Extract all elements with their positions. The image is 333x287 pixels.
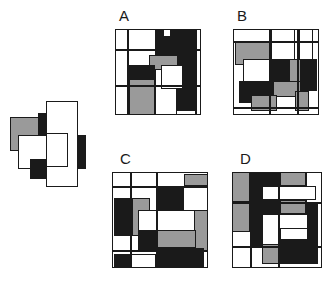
option-c-gridline-h-0 xyxy=(112,186,208,188)
option-label-d: D xyxy=(240,151,251,166)
option-d-rect-gray-3 xyxy=(280,172,306,186)
option-d-rect-white-5 xyxy=(262,186,316,200)
puzzle-canvas: A B C D xyxy=(0,0,333,287)
option-c-rect-white-11 xyxy=(130,254,156,268)
option-d-rect-gray-1 xyxy=(232,172,250,202)
option-c-rect-black-2 xyxy=(156,186,184,210)
option-c-rect-black-10 xyxy=(114,254,130,268)
option-a-rect-white-3 xyxy=(163,29,171,37)
option-a-rect-black-2 xyxy=(155,29,195,55)
option-label-c: C xyxy=(120,151,131,166)
option-b-rect-black-7 xyxy=(301,59,317,91)
reference-figure xyxy=(8,95,94,181)
option-panel-b[interactable] xyxy=(233,29,319,115)
option-d-rect-white-10 xyxy=(280,228,308,240)
option-c-rect-black-7 xyxy=(138,230,156,252)
option-a-gridline-v-3 xyxy=(195,29,197,115)
option-d-rect-gray-6 xyxy=(232,202,250,232)
option-d-gridline-h-0 xyxy=(232,202,322,204)
reference-rect-white-8 xyxy=(46,133,68,167)
option-label-a: A xyxy=(119,8,129,23)
option-c-gridline-v-3 xyxy=(156,172,158,268)
option-panel-d[interactable] xyxy=(232,172,322,268)
option-d-gridline-v-2 xyxy=(250,172,252,268)
option-c-gridline-v-2 xyxy=(130,172,132,268)
option-d-gridline-h-1 xyxy=(232,246,322,248)
option-b-rect-gray-10 xyxy=(251,95,277,111)
option-b-gridline-v-1 xyxy=(269,29,271,115)
option-label-b: B xyxy=(237,8,247,23)
option-b-gridline-v-2 xyxy=(297,29,299,115)
option-d-gridline-v-3 xyxy=(278,172,280,268)
option-b-gridline-h-3 xyxy=(233,107,319,109)
option-a-gridline-v-2 xyxy=(127,29,129,115)
option-panel-c[interactable] xyxy=(112,172,208,268)
option-c-rect-gray-6 xyxy=(194,210,208,252)
option-c-rect-gray-1 xyxy=(184,174,208,186)
option-panel-a[interactable] xyxy=(115,29,201,115)
option-c-rect-gray-8 xyxy=(156,230,196,248)
option-b-gridline-h-0 xyxy=(233,41,319,43)
option-d-rect-black-12 xyxy=(280,240,318,264)
option-c-gridline-h-1 xyxy=(112,250,208,252)
